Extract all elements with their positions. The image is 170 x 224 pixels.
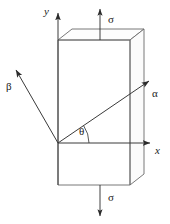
block-top-face bbox=[58, 29, 144, 40]
axis-label-x: x bbox=[155, 145, 160, 156]
angle-label-theta: θ bbox=[79, 126, 84, 137]
angle-arc-theta bbox=[84, 126, 89, 143]
axis-label-y: y bbox=[44, 6, 49, 17]
block-group bbox=[58, 29, 144, 185]
axis-beta bbox=[16, 70, 58, 143]
stress-label-top: σ bbox=[108, 14, 114, 25]
stress-label-bottom: σ bbox=[108, 192, 114, 203]
block-front-face bbox=[58, 40, 130, 185]
stress-diagram-figure: y x α β θ σ σ bbox=[0, 0, 170, 224]
diagram-canvas bbox=[0, 0, 170, 224]
block-right-face bbox=[130, 29, 144, 185]
axis-label-beta: β bbox=[6, 81, 12, 92]
axis-label-alpha: α bbox=[152, 88, 158, 99]
